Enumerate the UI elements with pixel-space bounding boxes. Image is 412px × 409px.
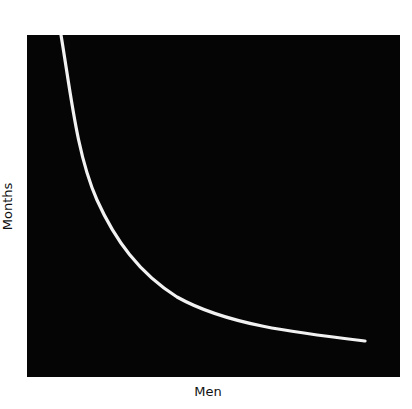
months-vs-men-curve (61, 35, 365, 341)
x-axis-label: Men (194, 384, 221, 399)
y-axis-label-container: Months (0, 196, 38, 216)
y-axis-label: Months (1, 182, 16, 230)
x-axis-label-container: Men (0, 384, 412, 399)
plot-area (27, 35, 400, 377)
curve-svg (27, 35, 400, 377)
